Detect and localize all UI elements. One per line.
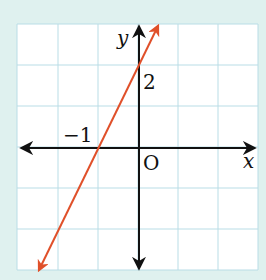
chart-figure: y x O 2 −1 xyxy=(0,0,266,280)
origin-label: O xyxy=(143,151,159,175)
x-axis-label: x xyxy=(243,149,254,173)
y-tick-label-2: 2 xyxy=(143,70,156,94)
y-axis-label: y xyxy=(116,26,129,50)
x-tick-label-neg1: −1 xyxy=(63,123,92,147)
chart-svg: y x O 2 −1 xyxy=(0,0,266,280)
